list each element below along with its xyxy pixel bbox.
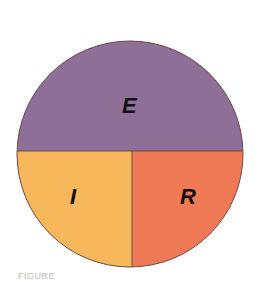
region-r — [132, 151, 257, 277]
region-e — [0, 0, 257, 151]
region-i — [0, 151, 132, 277]
figure-caption: FIGURE — [18, 271, 55, 281]
label-r: R — [180, 184, 196, 209]
label-i: I — [70, 184, 77, 209]
label-e: E — [122, 93, 138, 118]
